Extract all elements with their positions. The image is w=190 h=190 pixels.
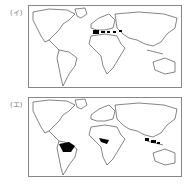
world-map-e [28, 97, 182, 177]
world-outline-e [29, 98, 181, 176]
map-label-e: (エ) [10, 99, 22, 109]
world-outline-i [29, 6, 181, 87]
highlight-mediterranean [93, 30, 122, 34]
world-map-i [28, 5, 182, 88]
highlight-southeast-asia [145, 138, 160, 144]
highlight-congo [99, 138, 109, 144]
highlight-amazon [59, 142, 75, 152]
map-label-i: (イ) [10, 7, 22, 17]
